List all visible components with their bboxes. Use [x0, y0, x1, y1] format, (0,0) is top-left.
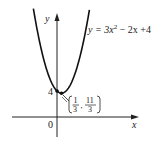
vertex-y-denominator: 3 — [88, 105, 92, 114]
y-axis-label: y — [44, 13, 50, 24]
vertex-point — [60, 91, 64, 95]
vertex-comma: , — [81, 101, 83, 110]
vertex-pointer — [63, 95, 69, 101]
parabola-graph: y x 0 4 y = 3x2 − 2x +4 1 3 , 11 3 — [0, 0, 166, 141]
y-intercept-label: 4 — [48, 86, 53, 97]
equation-tail: − 2x +4 — [117, 24, 151, 35]
parabola-curve — [33, 9, 89, 94]
vertex-label: 1 3 , 11 3 — [69, 96, 100, 114]
vertex-x-denominator: 3 — [73, 105, 77, 114]
x-axis-label: x — [131, 119, 137, 130]
equation-label: y = 3x2 − 2x +4 — [87, 23, 151, 35]
y-axis-arrow-icon — [55, 13, 60, 21]
vertex-y-numerator: 11 — [86, 96, 94, 105]
y-intercept-point — [55, 89, 59, 93]
vertex-x-numerator: 1 — [74, 96, 78, 105]
equation-main: y = 3x — [87, 24, 114, 35]
svg-text:y = 3x2 − 2x +4: y = 3x2 − 2x +4 — [87, 23, 151, 35]
origin-label: 0 — [48, 119, 53, 130]
